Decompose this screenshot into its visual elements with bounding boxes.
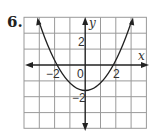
arrow-down-icon xyxy=(82,123,88,131)
origin-label: 0 xyxy=(77,67,84,81)
y-axis-label: y xyxy=(88,16,96,30)
parabola-graph: 2 −2 −2 0 2 x y xyxy=(0,0,162,140)
x-axis-label: x xyxy=(138,49,145,63)
arrow-up-icon xyxy=(82,17,88,25)
x-tick-neg2: −2 xyxy=(46,67,60,81)
y-tick-2: 2 xyxy=(78,35,85,49)
arrow-left-icon xyxy=(25,62,33,68)
y-tick-neg2: −2 xyxy=(72,91,86,105)
x-tick-2: 2 xyxy=(113,67,120,81)
